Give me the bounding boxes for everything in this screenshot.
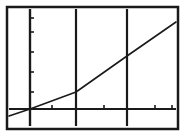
- graph-screenshot: [0, 0, 190, 139]
- chart-background: [0, 0, 190, 139]
- line-chart: [0, 0, 190, 139]
